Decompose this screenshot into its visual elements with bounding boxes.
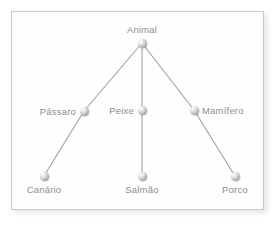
diagram-canvas: AnimalPássaroPeixeMamíferoCanárioSalmãoP…	[0, 0, 278, 226]
node-passaro[interactable]	[80, 107, 89, 116]
node-label-salmao: Salmão	[125, 184, 158, 195]
node-porco[interactable]	[231, 172, 240, 181]
node-label-passaro: Pássaro	[40, 106, 76, 117]
node-animal[interactable]	[138, 39, 147, 48]
node-mamifero[interactable]	[190, 106, 199, 115]
node-salmao[interactable]	[138, 172, 147, 181]
node-label-peixe: Peixe	[109, 105, 134, 116]
node-canario[interactable]	[40, 172, 49, 181]
node-label-mamifero: Mamífero	[202, 105, 244, 116]
node-peixe[interactable]	[138, 106, 147, 115]
node-label-animal: Animal	[127, 24, 157, 35]
node-label-canario: Canário	[27, 184, 62, 195]
node-label-porco: Porco	[222, 184, 248, 195]
